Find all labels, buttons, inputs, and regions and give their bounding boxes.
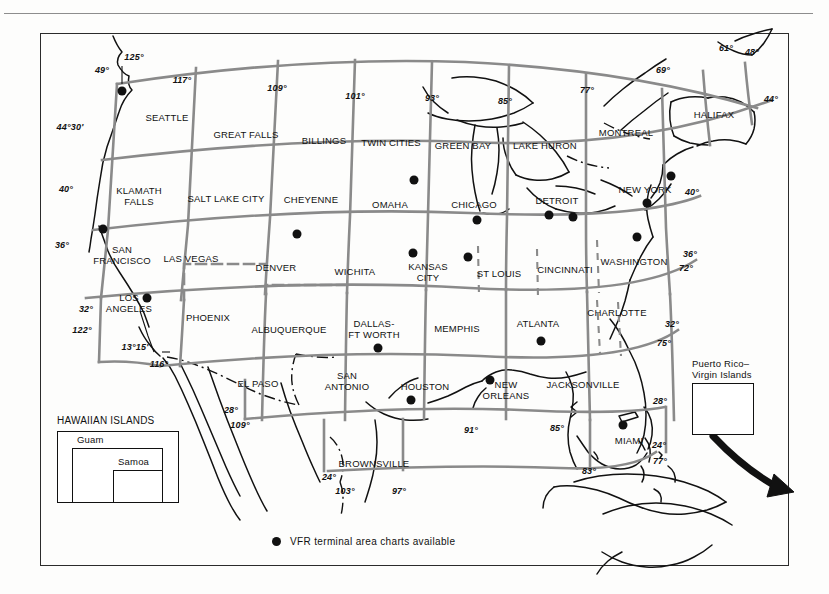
grid-lat-32 [160, 330, 678, 366]
lake-superior-north [452, 77, 533, 103]
border-us-canada-east-b [567, 156, 609, 168]
chart-cell-label: GREAT FALLS [213, 130, 278, 141]
chart-cell-label: GREEN BAY [435, 141, 492, 152]
coordinate-label: 109° [267, 83, 286, 93]
puerto-rico-pointer-arrow [713, 436, 794, 497]
coordinate-label: 116° [150, 359, 169, 369]
coordinate-label: 109° [230, 420, 249, 430]
chart-cell-label: DENVER [256, 263, 297, 274]
coordinate-label: 13°15' [122, 342, 149, 352]
coordinate-label: 103° [335, 486, 354, 496]
coordinate-label: 125° [124, 52, 143, 62]
terminal-area-chart-marker [569, 213, 578, 222]
coordinate-label: 44°30' [57, 122, 84, 132]
grid-lon-117c [180, 300, 184, 366]
coordinate-label: 32° [665, 319, 679, 329]
terminal-area-chart-marker [99, 225, 108, 234]
chart-cell-label: EL PASO [237, 379, 278, 390]
coordinate-label: 117° [173, 75, 192, 85]
chart-cell-label: LAKE HURON [513, 141, 577, 152]
chart-cell-label: ATLANTA [517, 319, 560, 330]
coordinate-label: 24° [322, 472, 336, 482]
chart-cell-label: TWIN CITIES [361, 138, 421, 149]
chart-cell-label: KANSASCITY [408, 262, 448, 283]
coordinate-label: 93° [425, 93, 439, 103]
coordinate-label: 28° [224, 405, 238, 415]
terminal-area-chart-marker [407, 396, 416, 405]
grid-lon-69b [670, 294, 674, 420]
map-legend: VFR terminal area charts available [272, 536, 455, 547]
coordinate-label: 49° [95, 65, 109, 75]
coast-mex-interior [281, 383, 320, 482]
terminal-area-chart-marker [464, 253, 473, 262]
coordinate-label: 32° [79, 304, 93, 314]
legend-label: VFR terminal area charts available [290, 536, 455, 547]
chart-cell-label: MEMPHIS [434, 324, 480, 335]
terminal-area-chart-marker [410, 176, 419, 185]
terminal-area-chart-marker [293, 230, 302, 239]
chart-cell-label: DALLAS-FT WORTH [348, 319, 399, 340]
coordinate-label: 101° [345, 91, 364, 101]
chart-cell-label: ALBUQUERQUE [251, 325, 326, 336]
coordinate-label: 36° [683, 249, 697, 259]
sectional-index-page: SEATTLEGREAT FALLSBILLINGSTWIN CITIESGRE… [0, 0, 829, 594]
chart-cell-label: SEATTLE [146, 113, 189, 124]
coordinate-label: 28° [653, 396, 667, 406]
coordinate-label: 83° [582, 466, 596, 476]
chart-cell-label: HOUSTON [401, 382, 450, 393]
terminal-area-chart-marker [486, 376, 495, 385]
terminal-area-chart-marker [643, 199, 652, 208]
chart-cell-label: CHEYENNE [284, 195, 338, 206]
grid-lon-109 [265, 61, 278, 294]
chart-cell-label: JACKSONVILLE [546, 380, 619, 391]
coordinate-label: 72° [679, 263, 693, 273]
grid-lon-93b [424, 290, 426, 419]
grid-cal-west [99, 298, 101, 362]
chart-cell-label: MONTREAL [599, 128, 653, 139]
border-rio-grande-upper [292, 354, 299, 405]
coordinate-label: 97° [392, 486, 406, 496]
chart-cell-label: SANANTONIO [325, 371, 370, 392]
international-border-group [167, 123, 650, 515]
chart-cell-label: SALT LAKE CITY [188, 194, 265, 205]
terminal-area-chart-marker [545, 211, 554, 220]
terminal-area-chart-marker [473, 216, 482, 225]
chart-cell-label: NEW YORK [618, 185, 671, 196]
coordinate-label: 24° [652, 440, 666, 450]
coordinate-label: 40° [685, 187, 699, 197]
samoa-box [113, 470, 163, 503]
grid-lon-101b [345, 293, 347, 420]
coast-hispaniola-south [602, 545, 712, 567]
chart-cell-label: SANFRANCISCO [93, 245, 151, 266]
coast-newengland-north [663, 147, 693, 165]
coordinate-label: 36° [55, 240, 69, 250]
puerto-rico-box [692, 383, 754, 435]
island-bahama-7 [654, 489, 661, 502]
coordinate-label: 69° [656, 65, 670, 75]
chart-cell-label: KLAMATHFALLS [116, 186, 162, 207]
terminal-area-chart-marker [537, 337, 546, 346]
river-st-lawrence-south [621, 93, 668, 130]
guam-label: Guam [77, 434, 104, 445]
terminal-area-chart-marker [619, 421, 628, 430]
lake-michigan-east [492, 128, 499, 194]
coordinate-label: 44° [764, 94, 778, 104]
chart-cell-label: CHICAGO [451, 200, 497, 211]
chart-cell-label: WICHITA [335, 267, 376, 278]
coast-cuba-west [543, 487, 554, 508]
chart-cell-label: PHOENIX [186, 313, 230, 324]
lake-erie-north [556, 186, 595, 194]
grid-ne-right [745, 63, 752, 124]
chart-cell-label: MIAMI [615, 436, 643, 447]
coast-hispaniola-west [597, 552, 622, 574]
grid-lon-77 [586, 74, 587, 292]
coordinate-label: 75° [657, 338, 671, 348]
chart-cell-label: HALIFAX [694, 110, 734, 121]
coast-nb-west [670, 102, 674, 136]
grid-lat-28 [245, 407, 665, 419]
coordinate-label: 61° [719, 43, 733, 53]
terminal-area-chart-marker [667, 172, 676, 181]
chart-cell-label: ST LOUIS [477, 269, 522, 280]
grid-dash-cincinnati-right [597, 240, 599, 293]
coast-cuba-north [574, 474, 726, 502]
